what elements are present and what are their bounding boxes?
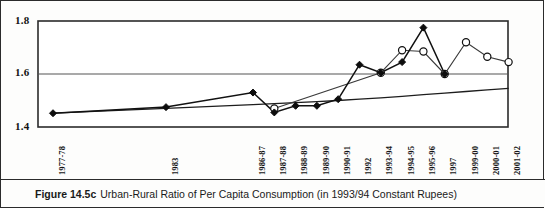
x-axis-label: 1992 <box>363 158 373 175</box>
data-point-open <box>462 39 469 46</box>
x-axis-label: 1989-90 <box>321 146 331 175</box>
y-axis-label-1-6: 1.6 <box>15 66 29 78</box>
x-axis-label: 1990-91 <box>342 146 352 175</box>
x-axis-label: 2001-02 <box>512 146 522 175</box>
y-axis-label-1-8: 1.8 <box>15 14 29 26</box>
x-axis-label: 1997 <box>448 158 458 175</box>
figure-container: 1.8 1.6 1.4 1977-7819831986-871987-88198… <box>0 0 544 208</box>
data-point-open <box>420 48 427 55</box>
caption-body: Urban-Rural Ratio of Per Capita Consumpt… <box>100 188 457 200</box>
x-axis-labels: 1977-7819831986-871987-881988-891989-901… <box>1 127 546 179</box>
data-point-open <box>484 53 491 60</box>
x-axis-label: 1986-87 <box>257 146 267 175</box>
caption-bar: Figure 14.5cUrban-Rural Ratio of Per Cap… <box>1 179 545 207</box>
x-axis-label: 1993-94 <box>384 146 394 175</box>
x-axis-label: 1995-96 <box>427 146 437 175</box>
x-axis-label: 1983 <box>170 158 180 175</box>
data-point-open <box>505 59 512 66</box>
caption-text: Figure 14.5cUrban-Rural Ratio of Per Cap… <box>35 188 457 200</box>
x-axis-label: 1999-00 <box>470 146 480 175</box>
x-axis-label: 1994-95 <box>406 146 416 175</box>
x-axis-label: 1987-88 <box>278 146 288 175</box>
x-axis-label: 1977-78 <box>57 146 67 175</box>
x-axis-label: 1988-89 <box>299 146 309 175</box>
caption-figure-number: Figure 14.5c <box>35 188 96 200</box>
data-point-open <box>399 47 406 54</box>
x-axis-label: 2000-01 <box>491 146 501 175</box>
